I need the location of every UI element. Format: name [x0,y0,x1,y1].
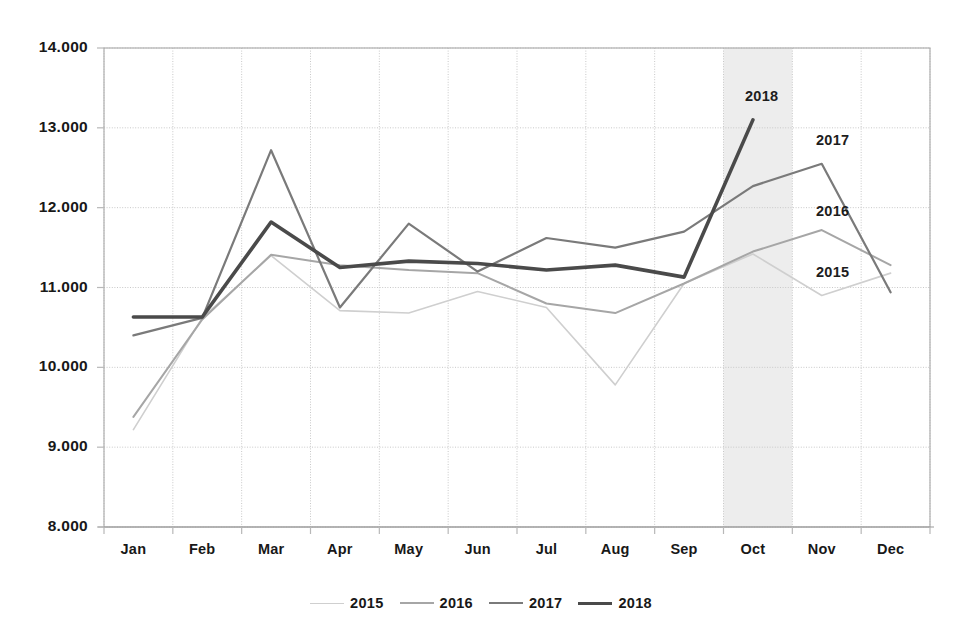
y-axis-tick-label: 10.000 [8,357,88,375]
series-label-2017: 2017 [816,132,849,148]
x-axis-tick-label-aug: Aug [580,541,650,557]
x-axis-tick-label-feb: Feb [167,541,237,557]
legend-item-2017[interactable]: 2017 [489,595,562,611]
y-axis-tick-label: 9.000 [8,437,88,455]
line-chart: 14.00013.00012.00011.00010.0009.0008.000… [0,0,962,633]
legend-label: 2018 [618,595,651,611]
x-axis-tick-label-jan: Jan [98,541,168,557]
legend-swatch-2016 [400,602,434,604]
x-axis-tick-label-jun: Jun [443,541,513,557]
series-label-2015: 2015 [816,264,849,280]
y-axis-tick-label: 13.000 [8,118,88,136]
x-axis-tick-label-dec: Dec [856,541,926,557]
series-label-2016: 2016 [816,203,849,219]
legend-swatch-2018 [578,602,612,605]
legend-swatch-2017 [489,602,523,604]
x-axis-tick-label-may: May [374,541,444,557]
x-axis-tick-label-jul: Jul [511,541,581,557]
x-axis-tick-label-oct: Oct [718,541,788,557]
legend-item-2015[interactable]: 2015 [310,595,383,611]
y-axis-tick-label: 8.000 [8,517,88,535]
y-axis-tick-label: 12.000 [8,198,88,216]
x-axis-tick-label-nov: Nov [787,541,857,557]
chart-legend: 2015201620172018 [0,595,962,611]
y-axis-tick-label: 14.000 [8,38,88,56]
legend-label: 2016 [440,595,473,611]
y-axis-tick-label: 11.000 [8,278,88,296]
legend-item-2018[interactable]: 2018 [578,595,651,611]
legend-item-2016[interactable]: 2016 [400,595,473,611]
legend-swatch-2015 [310,603,344,604]
legend-label: 2017 [529,595,562,611]
legend-label: 2015 [350,595,383,611]
x-axis-tick-label-mar: Mar [236,541,306,557]
x-axis-tick-label-apr: Apr [305,541,375,557]
x-axis-tick-label-sep: Sep [649,541,719,557]
series-label-2018: 2018 [745,88,778,104]
chart-plot-area [0,0,962,633]
